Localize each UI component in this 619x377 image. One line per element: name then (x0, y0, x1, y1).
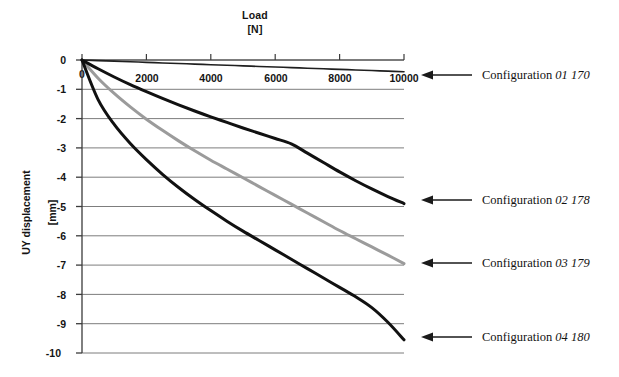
arrowhead-2 (421, 195, 433, 204)
callout-code-2: 02 178 (555, 193, 589, 207)
callout-prefix-2: Configuration (482, 193, 555, 207)
chart-figure: Load [N] UY displacement [mm] 0 -1 -2 -3… (0, 0, 619, 377)
series-line-configuration-02-178 (82, 60, 404, 204)
series-line-configuration-04-180 (82, 60, 404, 340)
arrowhead-1 (421, 70, 433, 79)
plot-area (0, 0, 619, 377)
callout-arrow-2 (421, 195, 472, 204)
callout-arrow-3 (421, 258, 472, 267)
series-line-configuration-03-179 (82, 60, 404, 264)
callout-code-3: 03 179 (555, 256, 589, 270)
y-axis (76, 60, 82, 353)
gridlines (82, 60, 404, 353)
arrowhead-4 (421, 332, 433, 341)
callout-arrow-4 (421, 332, 472, 341)
callout-prefix-1: Configuration (482, 68, 555, 82)
callout-label-configuration-04-180: Configuration 04 180 (482, 330, 590, 344)
data-series-group (82, 60, 404, 340)
callout-label-configuration-02-178: Configuration 02 178 (482, 193, 590, 207)
callout-code-1: 01 170 (555, 68, 589, 82)
x-axis (82, 54, 404, 60)
callout-prefix-3: Configuration (482, 256, 555, 270)
callout-code-4: 04 180 (555, 330, 589, 344)
callout-arrows (421, 70, 472, 341)
callout-label-configuration-01-170: Configuration 01 170 (482, 68, 590, 82)
series-line-configuration-01-170 (82, 60, 404, 72)
callout-label-configuration-03-179: Configuration 03 179 (482, 256, 590, 270)
arrowhead-3 (421, 258, 433, 267)
callout-prefix-4: Configuration (482, 330, 555, 344)
callout-arrow-1 (421, 70, 472, 79)
